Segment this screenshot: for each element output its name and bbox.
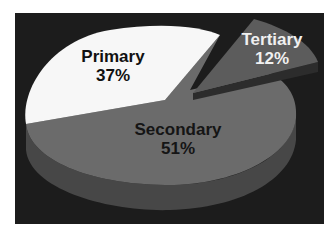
label-secondary-name: Secondary bbox=[128, 120, 228, 139]
label-tertiary-name: Tertiary bbox=[232, 30, 312, 49]
label-tertiary-value: 12% bbox=[232, 49, 312, 68]
label-secondary: Secondary 51% bbox=[128, 120, 228, 158]
label-secondary-value: 51% bbox=[128, 139, 228, 158]
label-primary: Primary 37% bbox=[68, 47, 158, 85]
label-primary-name: Primary bbox=[68, 47, 158, 66]
label-primary-value: 37% bbox=[68, 66, 158, 85]
label-tertiary: Tertiary 12% bbox=[232, 30, 312, 68]
